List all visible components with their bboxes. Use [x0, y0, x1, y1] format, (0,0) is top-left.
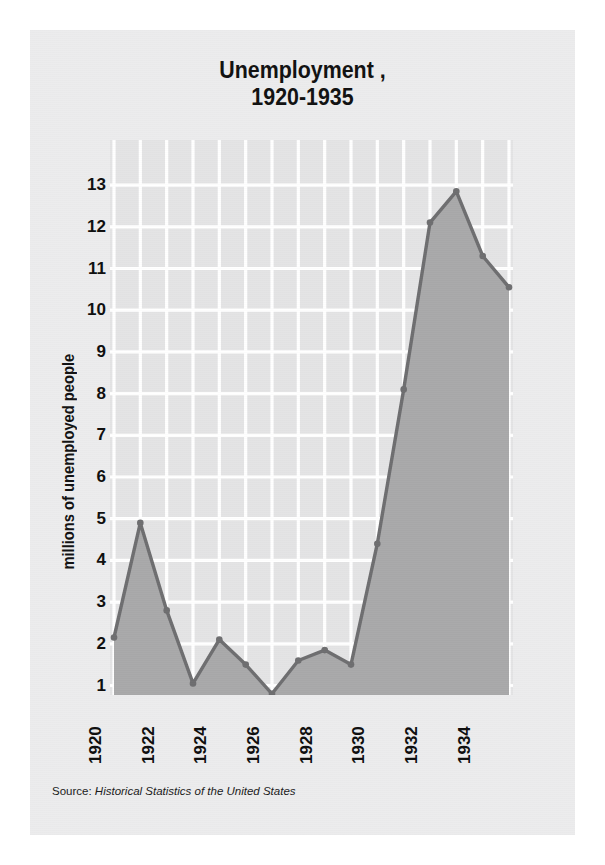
chart-page-panel: Unemployment , 1920-1935 millions of une…: [30, 30, 575, 835]
x-axis-tick-group: 19201922192419261928193019321934: [110, 702, 513, 764]
source-citation: Historical Statistics of the United Stat…: [95, 785, 296, 797]
y-tick-label-2: 2: [72, 635, 106, 652]
y-tick-label-4: 4: [72, 551, 106, 568]
page-title: Unemployment , 1920-1935: [49, 57, 556, 111]
y-tick-label-10: 10: [72, 301, 106, 318]
y-tick-label-5: 5: [72, 510, 106, 527]
y-tick-label-9: 9: [72, 343, 106, 360]
x-tick-label-1922: 1922: [140, 702, 158, 764]
source-prefix: Source:: [52, 785, 92, 797]
x-tick-label-1932: 1932: [403, 702, 421, 764]
source-note: Source: Historical Statistics of the Uni…: [52, 785, 296, 797]
y-tick-label-1: 1: [72, 677, 106, 694]
title-line-1: Unemployment ,: [49, 57, 556, 84]
y-tick-label-11: 11: [72, 260, 106, 277]
y-axis-tick-group: 13121110987654321: [66, 140, 106, 695]
plot-area: [110, 140, 513, 695]
y-tick-label-6: 6: [72, 468, 106, 485]
area-chart-svg: [110, 140, 513, 695]
x-tick-label-1926: 1926: [245, 702, 263, 764]
y-tick-label-8: 8: [72, 385, 106, 402]
y-tick-label-3: 3: [72, 593, 106, 610]
x-tick-label-1930: 1930: [350, 702, 368, 764]
title-line-2: 1920-1935: [49, 84, 556, 111]
x-tick-label-1928: 1928: [298, 702, 316, 764]
y-tick-label-13: 13: [72, 176, 106, 193]
x-tick-label-1924: 1924: [192, 702, 210, 764]
x-tick-label-1920: 1920: [87, 702, 105, 764]
y-tick-label-12: 12: [72, 218, 106, 235]
x-tick-label-1934: 1934: [456, 702, 474, 764]
y-tick-label-7: 7: [72, 426, 106, 443]
